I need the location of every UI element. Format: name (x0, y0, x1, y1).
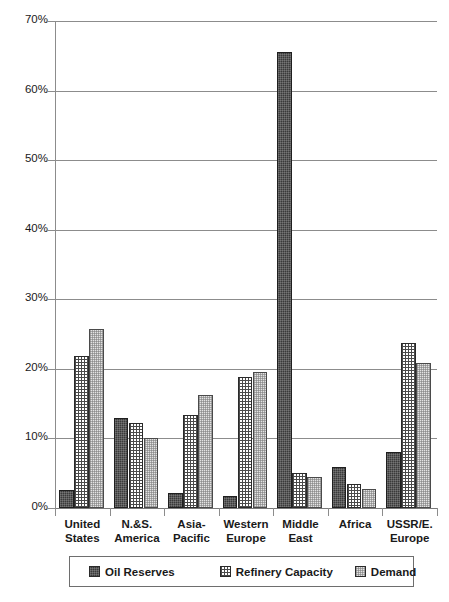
x-axis-category-label: USSR/E.Europe (382, 518, 437, 545)
legend-item: Demand (355, 566, 416, 578)
y-axis-tick-label: 20% (0, 361, 48, 373)
x-axis-category-label-line: Europe (382, 532, 437, 546)
legend-swatch-icon (89, 566, 100, 577)
x-axis-category-label-line: Europe (219, 532, 274, 546)
x-tick (219, 508, 220, 516)
x-tick (110, 508, 111, 516)
y-axis-tick-label: 40% (0, 222, 48, 234)
legend-swatch-icon (220, 566, 231, 577)
gridline-0% (55, 508, 437, 509)
bar (386, 452, 401, 508)
x-axis-category-label-line: USSR/E. (382, 518, 437, 532)
legend-label: Oil Reserves (105, 566, 175, 578)
gridline-50% (55, 160, 437, 161)
y-axis-tick-label: 0% (0, 500, 48, 512)
legend-swatch-icon (355, 566, 366, 577)
bar-chart: 0%10%20%30%40%50%60%70% UnitedStatesN.&S… (0, 0, 449, 602)
bar (401, 343, 416, 508)
y-axis-tick-label: 70% (0, 13, 48, 25)
gridline-60% (55, 91, 437, 92)
x-tick (164, 508, 165, 516)
x-axis-category-label: UnitedStates (55, 518, 110, 545)
caption-rule (0, 597, 449, 602)
bar (307, 477, 322, 508)
x-axis-category-label-line: Pacific (164, 532, 219, 546)
x-tick (328, 508, 329, 516)
y-axis-tick-label: 50% (0, 152, 48, 164)
x-axis-category-label: Asia-Pacific (164, 518, 219, 545)
plot-area (55, 21, 437, 508)
x-axis-category-label-line: N.&S. (110, 518, 165, 532)
bar (129, 423, 144, 508)
legend-item: Oil Reserves (89, 566, 175, 578)
x-axis-category-label: MiddleEast (273, 518, 328, 545)
x-axis-category-label: WesternEurope (219, 518, 274, 545)
legend-label: Refinery Capacity (236, 566, 333, 578)
x-tick (55, 508, 56, 516)
gridline-20% (55, 369, 437, 370)
x-axis-category-label-line: States (55, 532, 110, 546)
bar (253, 372, 268, 508)
x-axis-category-label-line: United (55, 518, 110, 532)
bar (59, 490, 74, 508)
bar (183, 415, 198, 508)
y-axis-tick-label: 10% (0, 430, 48, 442)
x-tick (273, 508, 274, 516)
y-tick (46, 438, 55, 439)
gridline-30% (55, 299, 437, 300)
bar (144, 438, 159, 508)
x-axis-category-label: N.&S.America (110, 518, 165, 545)
bar (362, 489, 377, 508)
x-tick (382, 508, 383, 516)
x-axis-category-label-line: Western (219, 518, 274, 532)
bar (332, 467, 347, 508)
y-axis-tick-label: 30% (0, 291, 48, 303)
bar (198, 395, 213, 508)
y-tick (46, 21, 55, 22)
bar (292, 473, 307, 508)
bar (277, 52, 292, 508)
gridline-40% (55, 230, 437, 231)
x-tick (437, 508, 438, 516)
bar (114, 418, 129, 508)
bar (223, 496, 238, 508)
legend-item: Refinery Capacity (220, 566, 333, 578)
legend-label: Demand (371, 566, 416, 578)
y-tick (46, 369, 55, 370)
x-axis-category-label-line: America (110, 532, 165, 546)
x-axis-category-label-line: Africa (328, 518, 383, 532)
y-tick (46, 508, 55, 509)
y-axis-tick-label: 60% (0, 83, 48, 95)
bar (89, 329, 104, 508)
x-axis-category-label: Africa (328, 518, 383, 532)
bar (416, 363, 431, 508)
y-tick (46, 91, 55, 92)
gridline-70% (55, 21, 437, 22)
y-tick (46, 299, 55, 300)
x-axis-category-label-line: Middle (273, 518, 328, 532)
bar (238, 377, 253, 508)
bar (168, 493, 183, 508)
y-tick (46, 160, 55, 161)
bar (74, 356, 89, 508)
y-tick (46, 230, 55, 231)
x-axis-category-label-line: East (273, 532, 328, 546)
chart-legend: Oil ReservesRefinery CapacityDemand (69, 556, 414, 587)
bar (347, 484, 362, 508)
x-axis-category-label-line: Asia- (164, 518, 219, 532)
